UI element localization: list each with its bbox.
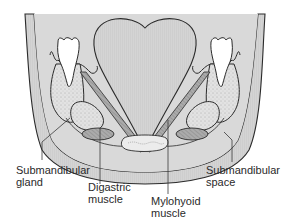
left-digastric-muscle (82, 128, 114, 140)
label-mylohyoid-muscle-line2: muscle (151, 207, 201, 219)
label-submandibular-gland-line2: gland (16, 176, 90, 188)
hyoid-region (121, 135, 168, 152)
label-mylohyoid-muscle-line1: Mylohyoid (151, 195, 201, 207)
label-submandibular-space-line1: Submandibular (206, 164, 280, 176)
label-digastric-muscle: Digastric muscle (88, 181, 131, 205)
label-digastric-muscle-line1: Digastric (88, 181, 131, 193)
label-submandibular-space: Submandibular space (206, 164, 280, 188)
label-submandibular-gland-line1: Submandibular (16, 164, 90, 176)
label-digastric-muscle-line2: muscle (88, 193, 131, 205)
label-submandibular-space-line2: space (206, 176, 280, 188)
right-digastric-muscle (176, 128, 208, 140)
label-submandibular-gland: Submandibular gland (16, 164, 90, 188)
floor-of-mouth-diagram (0, 0, 291, 223)
label-mylohyoid-muscle: Mylohyoid muscle (151, 195, 201, 219)
